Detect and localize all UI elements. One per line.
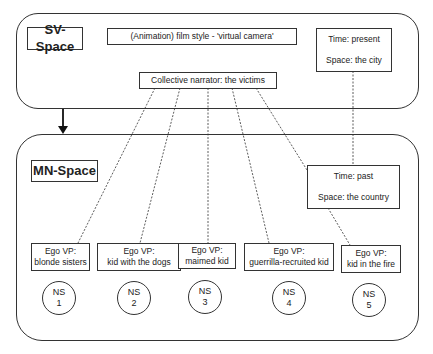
ns-number: 5 (366, 300, 371, 311)
ego-vp-name: guerrilla-recruited kid (249, 257, 328, 268)
collective-narrator-box: Collective narrator: the victims (139, 72, 277, 89)
ego-vp-box-3: Ego VP: maimed kid (178, 243, 236, 269)
ns-label: NS (199, 286, 212, 297)
ego-vp-title: Ego VP: (45, 246, 76, 257)
ego-vp-box-5: Ego VP: kid in the fire (341, 245, 401, 273)
ego-vp-box-1: Ego VP: blonde sisters (31, 243, 90, 271)
ego-vp-box-4: Ego VP: guerrilla-recruited kid (244, 243, 334, 271)
ns-number: 1 (56, 298, 61, 309)
ns-circle-4: NS 4 (272, 281, 306, 315)
past-time-space-box: Time: past Space: the country (307, 165, 400, 209)
space-country: Space: the country (318, 192, 389, 203)
ego-vp-name: kid in the fire (347, 259, 395, 270)
ego-vp-box-2: Ego VP: kid with the dogs (97, 243, 181, 271)
ego-vp-name: kid with the dogs (107, 257, 170, 268)
ns-label: NS (363, 289, 376, 300)
ego-vp-name: blonde sisters (34, 257, 86, 268)
ego-vp-title: Ego VP: (355, 248, 386, 259)
ego-vp-title: Ego VP: (273, 246, 304, 257)
ns-number: 2 (131, 298, 136, 309)
sv-space-label: SV-Space (27, 27, 83, 50)
ns-circle-5: NS 5 (352, 283, 386, 317)
ns-label: NS (283, 287, 296, 298)
ns-circle-2: NS 2 (117, 281, 151, 315)
time-present: Time: present (328, 34, 380, 45)
ns-circle-3: NS 3 (188, 280, 222, 314)
mn-space-label: MN-Space (31, 160, 98, 182)
film-style-box: (Animation) film style - 'virtual camera… (107, 28, 297, 45)
space-city: Space: the city (326, 55, 382, 66)
ns-label: NS (128, 287, 141, 298)
ego-vp-name: maimed kid (185, 256, 228, 267)
ego-vp-title: Ego VP: (191, 245, 222, 256)
time-past: Time: past (334, 171, 373, 182)
ns-label: NS (53, 287, 66, 298)
ns-number: 4 (286, 298, 291, 309)
present-time-space-box: Time: present Space: the city (316, 28, 392, 72)
ego-vp-title: Ego VP: (123, 246, 154, 257)
ns-number: 3 (202, 297, 207, 308)
ns-circle-1: NS 1 (42, 281, 76, 315)
